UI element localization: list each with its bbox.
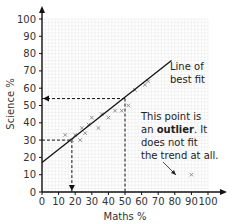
y-tick-label: 100 bbox=[17, 14, 36, 25]
outlier-note-line4: the trend at all. bbox=[141, 150, 219, 161]
y-tick-label: 30 bbox=[23, 135, 36, 146]
y-axis-arrow-icon bbox=[39, 6, 45, 13]
x-tick-label: 80 bbox=[168, 196, 181, 207]
y-tick-label: 40 bbox=[23, 117, 36, 128]
outlier-note-line3: does not fit bbox=[141, 137, 198, 148]
down-arrow-icon bbox=[69, 185, 75, 191]
x-tick-label: 60 bbox=[135, 196, 148, 207]
x-tick-label: 40 bbox=[102, 196, 115, 207]
x-axis-label: Maths % bbox=[104, 211, 147, 222]
outlier-note-line2: an outlier. It bbox=[141, 124, 207, 135]
outlier-term: outlier bbox=[157, 124, 194, 135]
x-tick-label: 30 bbox=[85, 196, 98, 207]
x-axis-arrow-icon bbox=[220, 189, 227, 195]
y-tick-label: 50 bbox=[23, 100, 36, 111]
x-tick-label: 20 bbox=[69, 196, 82, 207]
y-tick-label: 80 bbox=[23, 48, 36, 59]
x-tick-label: 0 bbox=[39, 196, 45, 207]
x-tick-label: 10 bbox=[52, 196, 65, 207]
lobf-label-line1: Line of bbox=[170, 61, 204, 72]
lobf-label-line2: best fit bbox=[170, 74, 205, 85]
outlier-note-line1: This point is bbox=[140, 111, 201, 122]
y-tick-label: 0 bbox=[30, 187, 36, 198]
scatter-chart: 0102030405060708090100010203040506070809… bbox=[0, 0, 237, 224]
y-tick-label: 20 bbox=[23, 152, 36, 163]
y-axis-label: Science % bbox=[5, 78, 16, 129]
y-tick-label: 70 bbox=[23, 65, 36, 76]
left-arrow-icon bbox=[43, 96, 49, 102]
y-tick-label: 10 bbox=[23, 169, 36, 180]
x-tick-label: 90 bbox=[185, 196, 198, 207]
y-tick-label: 90 bbox=[23, 31, 36, 42]
x-tick-label: 70 bbox=[152, 196, 165, 207]
axes bbox=[39, 6, 227, 195]
y-tick-label: 60 bbox=[23, 83, 36, 94]
x-tick-label: 100 bbox=[198, 196, 217, 207]
x-tick-label: 50 bbox=[119, 196, 132, 207]
